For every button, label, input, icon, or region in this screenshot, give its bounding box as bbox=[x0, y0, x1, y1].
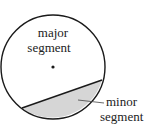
minor-label-line2: segment bbox=[100, 109, 144, 124]
minor-segment-region bbox=[22, 80, 102, 118]
circle-segment-diagram: major segment minor segment bbox=[0, 0, 146, 126]
major-label-line1: major bbox=[38, 25, 69, 40]
center-dot bbox=[51, 65, 54, 68]
major-label-line2: segment bbox=[27, 40, 71, 55]
minor-label-line1: minor bbox=[106, 94, 138, 109]
